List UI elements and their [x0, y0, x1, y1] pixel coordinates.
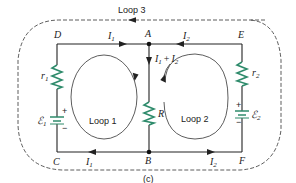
emf1-plus: + [62, 106, 67, 116]
node-B-label: B [145, 155, 151, 166]
emf2-plus: + [236, 100, 241, 110]
loop3-arrow-icon [128, 17, 136, 22]
node-E-label: E [237, 29, 244, 40]
current-top-right-label: I2 [182, 30, 190, 43]
current-arrow-top-left-icon [119, 41, 127, 47]
loop1-label: Loop 1 [89, 116, 117, 126]
node-A-label: A [144, 28, 152, 39]
current-middle-label: I1+I2 [154, 53, 179, 66]
R-label: R [157, 108, 164, 119]
current-top-left-label: I1 [107, 30, 115, 43]
emf1-label: ℰ1 [37, 115, 47, 128]
r2-label: r2 [252, 67, 260, 80]
resistor-r1-icon [52, 65, 62, 89]
node-F-label: F [238, 155, 246, 166]
node-C-label: C [53, 156, 60, 167]
current-arrow-bottom-right-icon [207, 149, 215, 155]
r1-label: r1 [41, 70, 48, 83]
junction-B [147, 150, 152, 155]
resistor-r2-icon [237, 62, 247, 86]
figure-caption: (c) [143, 174, 154, 183]
circuit-diagram: Loop 3 Loop 1 Loop 2 D A E C B F [0, 0, 296, 183]
loop3-label: Loop 3 [118, 5, 146, 15]
current-arrow-top-right-icon [176, 41, 184, 47]
loop2-label: Loop 2 [181, 114, 209, 124]
current-bottom-left-label: I1 [85, 156, 93, 169]
emf2-label: ℰ2 [251, 109, 261, 122]
emf2-minus: − [236, 117, 241, 127]
node-D-label: D [53, 29, 62, 40]
loop2-path [164, 54, 228, 139]
current-bottom-right-label: I2 [209, 156, 217, 169]
loop1-path [71, 55, 137, 139]
loop1-arrow-icon [132, 73, 139, 82]
resistor-R-icon [144, 102, 154, 125]
emf1-minus: − [62, 123, 67, 133]
junction-A [147, 42, 152, 47]
current-arrow-middle-icon [146, 57, 152, 65]
current-arrow-bottom-left-icon [88, 149, 96, 155]
